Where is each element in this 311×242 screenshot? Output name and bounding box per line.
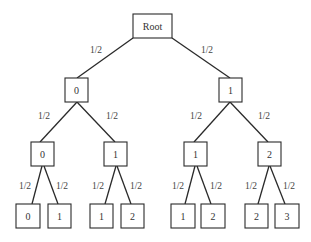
edge-l1a-l2b (77, 102, 115, 142)
edge-root-l1b (172, 38, 230, 78)
edge-l1b-l2c (194, 102, 230, 142)
tree-node-l2c: 1 (184, 142, 207, 166)
node-label: 0 (74, 85, 79, 96)
tree-node-l3a: 0 (16, 204, 40, 228)
tree-node-l3e: 1 (171, 204, 195, 228)
tree-node-l3d: 2 (121, 204, 144, 228)
tree-nodes: Root01011201121223 (16, 14, 299, 228)
tree-edges (32, 38, 285, 204)
node-label: 2 (130, 211, 135, 222)
edge-l2b-l3c (105, 166, 116, 204)
node-label: 2 (211, 211, 216, 222)
edge-probability-label: 1/2 (90, 45, 102, 55)
tree-node-l1a: 0 (65, 78, 88, 102)
node-label: 3 (285, 211, 290, 222)
edge-l2b-l3d (117, 166, 131, 204)
tree-node-l3f: 2 (201, 204, 225, 228)
node-label: 1 (193, 149, 198, 160)
edge-probability-labels: 1/21/21/21/21/21/21/21/21/21/21/21/21/21… (19, 45, 295, 191)
node-label: Root (143, 21, 163, 32)
node-label: 1 (57, 211, 62, 222)
probability-tree-diagram: 1/21/21/21/21/21/21/21/21/21/21/21/21/21… (0, 0, 311, 242)
tree-node-l1b: 1 (219, 78, 242, 102)
edge-l2c-l3e (185, 166, 195, 204)
edge-probability-label: 1/2 (245, 181, 257, 191)
edge-probability-label: 1/2 (106, 111, 118, 121)
tree-node-root: Root (133, 14, 172, 38)
node-label: 0 (26, 211, 31, 222)
edge-probability-label: 1/2 (92, 181, 104, 191)
edge-l1b-l2d (230, 102, 268, 142)
tree-node-l3c: 1 (90, 204, 113, 228)
edge-l2a-l3a (32, 166, 42, 204)
edge-probability-label: 1/2 (38, 111, 50, 121)
node-label: 1 (99, 211, 104, 222)
edge-probability-label: 1/2 (172, 181, 184, 191)
edge-probability-label: 1/2 (56, 181, 68, 191)
edge-probability-label: 1/2 (283, 181, 295, 191)
edge-probability-label: 1/2 (19, 181, 31, 191)
edge-probability-label: 1/2 (130, 181, 142, 191)
node-label: 2 (254, 211, 259, 222)
edge-root-l1a (77, 38, 133, 78)
node-label: 1 (113, 149, 118, 160)
tree-node-l3b: 1 (48, 204, 71, 228)
tree-node-l2a: 0 (31, 142, 54, 166)
node-label: 2 (267, 149, 272, 160)
node-label: 1 (181, 211, 186, 222)
tree-node-l2b: 1 (104, 142, 127, 166)
node-label: 0 (40, 149, 45, 160)
edge-l2c-l3f (197, 166, 211, 204)
edge-probability-label: 1/2 (190, 111, 202, 121)
edge-probability-label: 1/2 (201, 45, 213, 55)
node-label: 1 (228, 85, 233, 96)
edge-l1a-l2a (40, 102, 77, 142)
tree-node-l3h: 3 (275, 204, 299, 228)
edge-probability-label: 1/2 (210, 181, 222, 191)
tree-node-l3g: 2 (245, 204, 268, 228)
tree-node-l2d: 2 (258, 142, 281, 166)
edge-l2d-l3g (258, 166, 269, 204)
edge-probability-label: 1/2 (258, 111, 270, 121)
